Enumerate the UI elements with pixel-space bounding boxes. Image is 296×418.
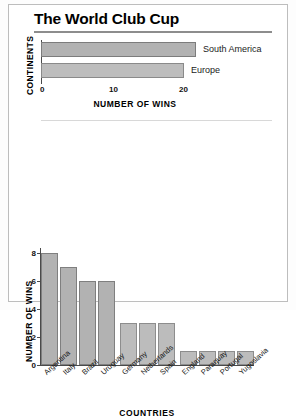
countries-ytick-0: 0 — [22, 361, 36, 370]
countries-ytick-4: 4 — [22, 305, 36, 314]
bar-brazil — [79, 281, 96, 365]
countries-ytick-2: 2 — [22, 333, 36, 342]
continents-plot-area: South America Europe — [41, 40, 251, 82]
bar-label-europe: Europe — [191, 65, 220, 75]
ytick-mark-0 — [37, 365, 41, 366]
countries-plot-area — [40, 245, 254, 365]
continents-axis-title: CONTINENTS — [25, 36, 35, 95]
countries-y-axis-title: NUMBER OF WINS — [24, 280, 34, 362]
continents-xtick-0: 0 — [40, 85, 44, 94]
continents-bar-chart: CONTINENTS South America Europe 0 10 20 … — [0, 0, 296, 116]
bar-uruguay — [98, 281, 115, 365]
countries-ytick-8: 8 — [22, 249, 36, 258]
continents-x-axis-title: NUMBER OF WINS — [0, 99, 270, 109]
bar-label-south-america: South America — [203, 44, 262, 54]
continents-xtick-20: 20 — [179, 85, 188, 94]
countries-x-axis-title: COUNTRIES — [40, 408, 254, 418]
continents-xtick-10: 10 — [109, 85, 118, 94]
bar-south-america — [41, 42, 196, 57]
bar-europe — [41, 63, 184, 78]
countries-ytick-6: 6 — [22, 277, 36, 286]
countries-bar-chart: NUMBER OF WINS 8 6 4 2 0 Argentina Italy — [0, 120, 296, 310]
bar-argentina — [41, 253, 58, 365]
